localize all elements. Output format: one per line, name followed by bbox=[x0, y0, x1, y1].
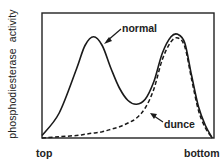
normal-arrow-icon bbox=[104, 29, 121, 44]
dunce-arrow-icon bbox=[150, 113, 163, 122]
normal-annotation: normal bbox=[122, 22, 157, 34]
x-tick-label-top: top bbox=[36, 147, 52, 159]
y-axis-label: phosphodiesterase activity bbox=[6, 9, 18, 138]
x-tick-label-bottom: bottom bbox=[184, 147, 220, 159]
dunce-annotation: dunce bbox=[164, 118, 195, 130]
chart-canvas bbox=[0, 0, 223, 168]
